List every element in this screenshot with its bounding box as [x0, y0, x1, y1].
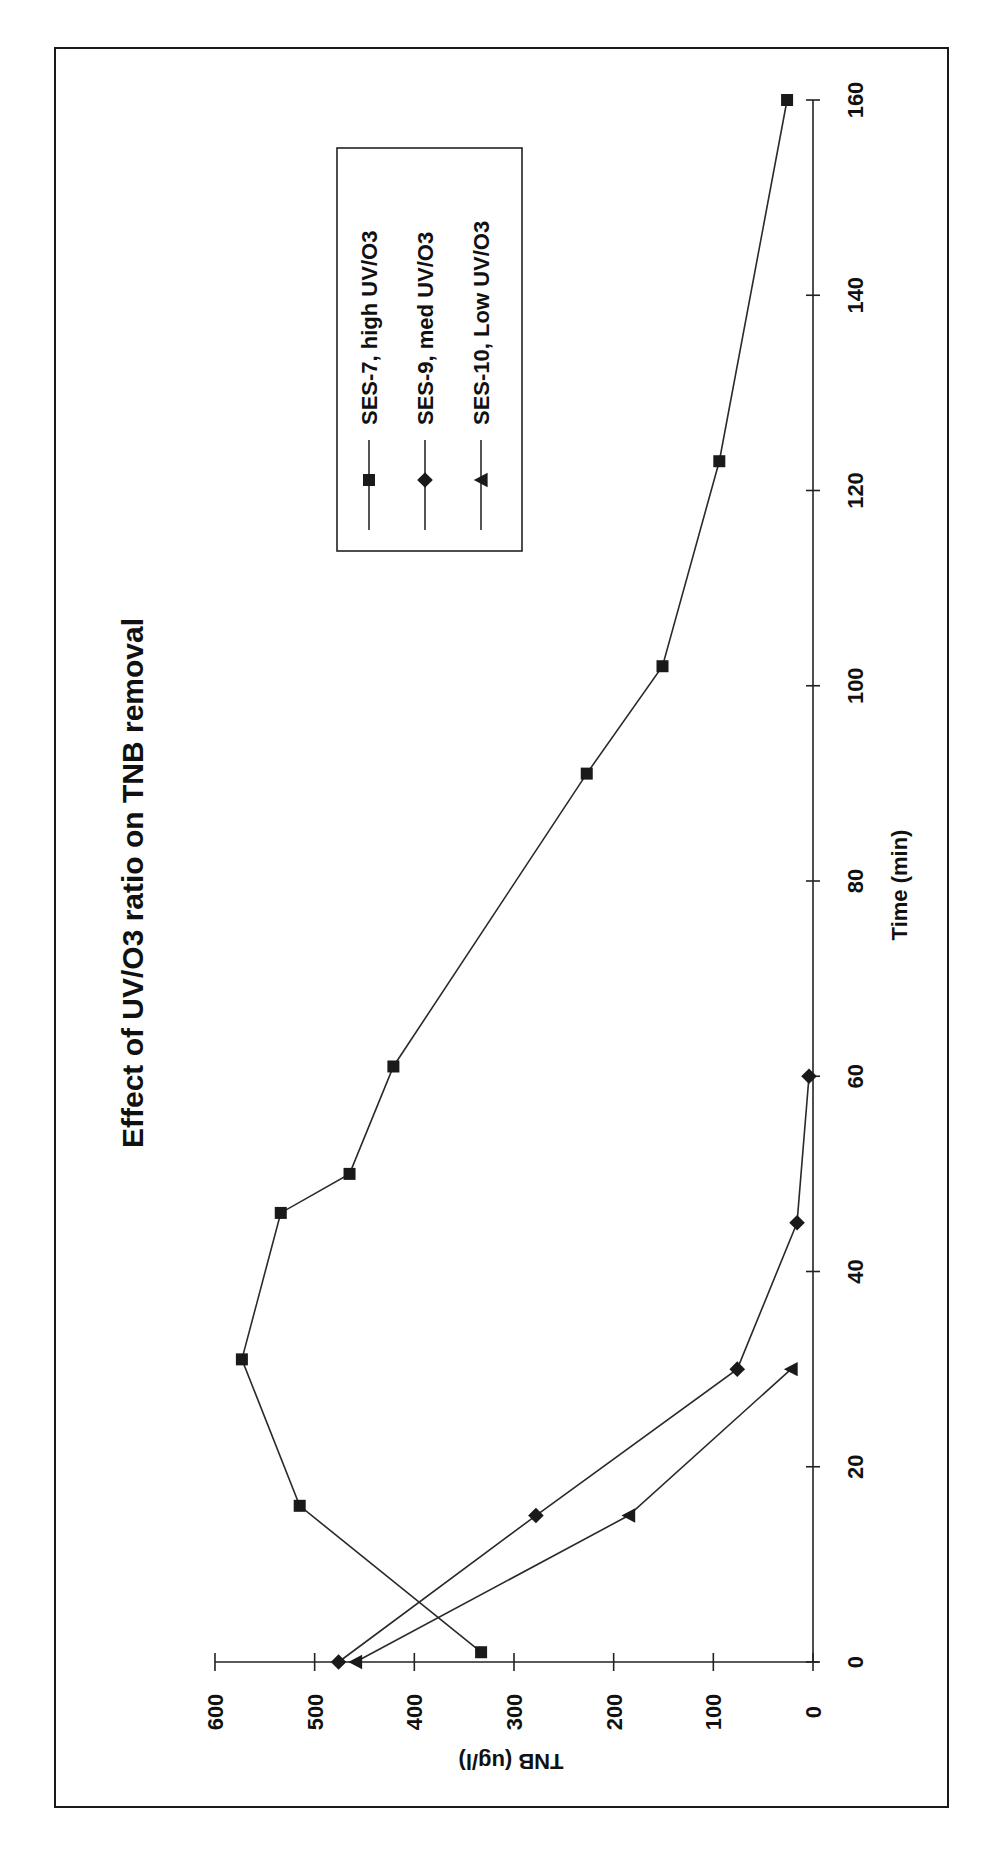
legend-label: SES-9, med UV/O3	[413, 232, 438, 425]
chart: Effect of UV/O3 ratio on TNB removal 020…	[0, 0, 998, 1861]
diamond-marker	[729, 1361, 745, 1377]
tnb-tick-label: 0	[801, 1706, 826, 1718]
tnb-tick-label: 500	[303, 1694, 328, 1731]
time-axis-title: Time (min)	[887, 830, 912, 941]
square-marker	[275, 1207, 287, 1219]
square-legend-icon	[363, 474, 375, 486]
square-marker	[713, 455, 725, 467]
time-tick-label: 100	[843, 667, 868, 704]
tnb-axis: 0100200300400500600	[203, 1653, 826, 1730]
series-line	[356, 1369, 792, 1662]
square-marker	[581, 768, 593, 780]
square-marker	[236, 1353, 248, 1365]
time-axis: 020406080100120140160	[806, 82, 868, 1668]
tnb-tick-label: 600	[203, 1694, 228, 1731]
plot-area	[236, 94, 817, 1670]
chart-title: Effect of UV/O3 ratio on TNB removal	[116, 618, 149, 1148]
triangle-marker	[348, 1655, 362, 1669]
square-marker	[475, 1646, 487, 1658]
diamond-marker	[801, 1068, 817, 1084]
time-tick-label: 140	[843, 277, 868, 314]
square-marker	[387, 1060, 399, 1072]
time-tick-label: 0	[843, 1656, 868, 1668]
time-tick-label: 80	[843, 869, 868, 893]
diamond-marker	[789, 1215, 805, 1231]
square-marker	[656, 660, 668, 672]
series-triangle	[348, 1362, 797, 1669]
time-tick-label: 60	[843, 1064, 868, 1088]
tnb-axis-title: TNB (ug/l)	[458, 1749, 563, 1774]
time-tick-label: 40	[843, 1259, 868, 1283]
time-tick-label: 160	[843, 82, 868, 119]
series-diamond	[331, 1068, 817, 1669]
square-marker	[781, 94, 793, 106]
time-tick-label: 120	[843, 472, 868, 509]
square-marker	[344, 1168, 356, 1180]
legend: SES-7, high UV/O3SES-9, med UV/O3SES-10,…	[337, 148, 522, 551]
diamond-marker	[528, 1508, 544, 1524]
square-marker	[294, 1500, 306, 1512]
tnb-tick-label: 100	[701, 1694, 726, 1731]
diamond-marker	[331, 1654, 347, 1670]
tnb-tick-label: 200	[602, 1694, 627, 1731]
triangle-marker	[621, 1508, 635, 1522]
tnb-tick-label: 400	[402, 1694, 427, 1731]
legend-label: SES-10, Low UV/O3	[469, 221, 494, 425]
legend-label: SES-7, high UV/O3	[357, 231, 382, 425]
time-tick-label: 20	[843, 1455, 868, 1479]
tnb-tick-label: 300	[502, 1694, 527, 1731]
